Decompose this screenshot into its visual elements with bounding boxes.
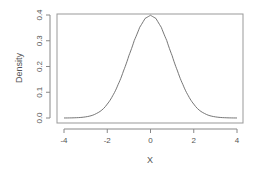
y-tick-label: 0.1 [35, 86, 44, 98]
y-tick-label: 0.0 [35, 112, 44, 124]
density-chart: 0.00.10.20.30.4 -4-2024 X Density [0, 0, 256, 174]
x-axis-title: X [147, 155, 153, 165]
y-axis: 0.00.10.20.30.4 [35, 9, 50, 124]
plot-box [57, 14, 243, 123]
density-curve [64, 15, 237, 118]
x-tick-label: -4 [60, 136, 68, 145]
y-axis-title: Density [14, 52, 24, 83]
y-tick-label: 0.2 [35, 60, 44, 72]
x-tick-label: 0 [148, 136, 153, 145]
x-tick-label: 2 [192, 136, 197, 145]
y-tick-label: 0.3 [35, 35, 44, 47]
x-tick-label: -2 [104, 136, 112, 145]
y-tick-label: 0.4 [35, 9, 44, 21]
x-tick-label: 4 [235, 136, 240, 145]
x-axis: -4-2024 [60, 129, 239, 145]
